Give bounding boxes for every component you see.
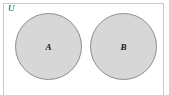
set-label-a: A xyxy=(16,42,81,51)
set-circle-a: A xyxy=(15,13,82,80)
venn-diagram-figure: U A B xyxy=(0,0,169,95)
set-circle-b: B xyxy=(90,13,157,80)
universal-set-label: U xyxy=(8,4,15,13)
set-label-b: B xyxy=(91,42,156,51)
